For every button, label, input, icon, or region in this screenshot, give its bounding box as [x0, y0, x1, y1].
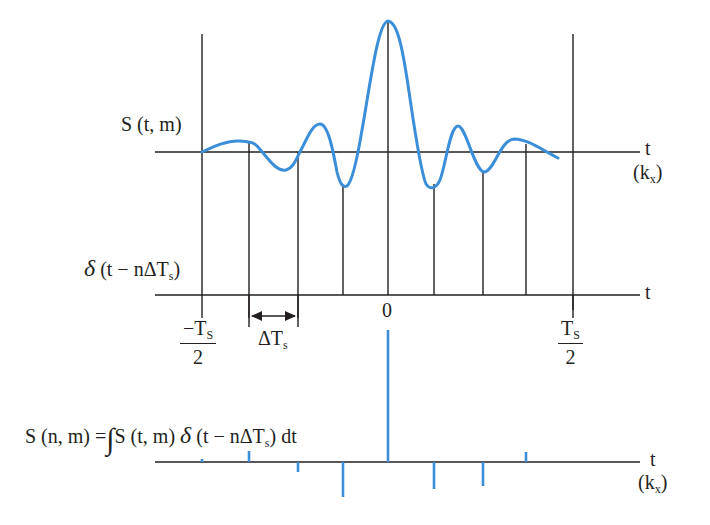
signal-curve — [202, 21, 558, 188]
top-axis-unit: (kx) — [633, 162, 662, 185]
interval-arrowhead-right — [285, 311, 296, 321]
left-limit-denominator: 2 — [180, 344, 216, 367]
sampling-equation: S (n, m) =∫S (t, m) δ (t − nΔTs) dt — [25, 423, 297, 454]
interval-arrowhead-left — [251, 311, 262, 321]
left-limit-numerator: −TS — [180, 318, 216, 344]
num-text: T — [561, 317, 573, 339]
unit-text: (k — [638, 471, 655, 493]
equation-delta: δ — [180, 422, 191, 448]
bottom-axis-unit: (kx) — [638, 472, 667, 495]
sampling-close: ) — [173, 258, 180, 280]
interval-label: ΔTs — [258, 328, 288, 351]
middle-axis-label: t — [645, 282, 651, 302]
top-panel-axes — [155, 22, 640, 318]
sampling-function-label: δ (t − nΔTs) — [84, 256, 180, 282]
equation-rhs-b: (t − nΔT — [191, 425, 265, 447]
equation-rhs-a: S (t, m) — [115, 425, 181, 447]
right-limit-numerator: TS — [558, 318, 583, 344]
right-limit-denominator: 2 — [558, 344, 583, 367]
num-sub: S — [207, 328, 214, 342]
integral-sign: ∫ — [106, 422, 114, 455]
delta-symbol: δ — [84, 255, 95, 281]
top-axis-label: t — [645, 138, 651, 158]
num-sub: S — [573, 328, 580, 342]
left-limit-fraction: −TS 2 — [180, 318, 216, 367]
unit-text: (k — [633, 161, 650, 183]
interval-text: ΔT — [258, 327, 283, 349]
origin-label: 0 — [382, 300, 392, 320]
sampled-impulses — [202, 330, 526, 497]
sampling-text: (t − nΔT — [95, 258, 169, 280]
equation-lhs: S (n, m) = — [25, 425, 106, 447]
equation-rhs-c: ) dt — [269, 425, 296, 447]
interval-sub: s — [283, 338, 288, 352]
right-limit-fraction: TS 2 — [558, 318, 583, 367]
unit-close: ) — [656, 161, 663, 183]
unit-close: ) — [661, 471, 668, 493]
num-text: −T — [183, 317, 207, 339]
bottom-axis-label: t — [650, 449, 656, 469]
signal-label: S (t, m) — [121, 114, 182, 134]
